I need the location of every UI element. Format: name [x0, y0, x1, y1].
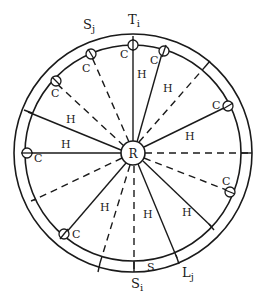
c-node — [225, 187, 235, 197]
svg-text:H: H — [143, 208, 153, 221]
c-node — [21, 148, 33, 158]
label-top: Ti — [128, 12, 140, 29]
svg-text:C: C — [222, 175, 230, 188]
label-bottom: Si — [131, 276, 143, 293]
svg-text:H: H — [185, 130, 195, 143]
center-hub: R — [121, 141, 145, 165]
svg-text:C: C — [51, 87, 59, 100]
svg-text:H: H — [61, 138, 71, 151]
diagram-canvas: R C C C C C C C C H H H H H H H H Ti Sj … — [0, 0, 263, 306]
svg-text:C: C — [150, 54, 158, 67]
svg-text:C: C — [120, 48, 128, 61]
svg-text:C: C — [34, 152, 42, 165]
c-node — [159, 45, 169, 57]
svg-text:H: H — [163, 82, 173, 95]
svg-text:H: H — [182, 206, 192, 219]
c-node — [128, 39, 138, 51]
c-node — [223, 101, 233, 111]
label-ring-gap: S — [147, 261, 155, 274]
svg-text:C: C — [212, 99, 220, 112]
svg-text:C: C — [82, 62, 90, 75]
svg-text:H: H — [66, 113, 76, 126]
label-bottom-right: Lj — [182, 265, 194, 282]
c-node — [51, 76, 61, 86]
c-node — [86, 49, 96, 59]
wheel-diagram: R C C C C C C C C H H H H H H H H Ti Sj … — [0, 0, 263, 306]
svg-text:C: C — [72, 228, 80, 241]
svg-text:H: H — [100, 201, 110, 214]
label-top-left: Sj — [83, 17, 95, 34]
svg-text:H: H — [137, 68, 147, 81]
center-label: R — [128, 147, 138, 161]
c-node — [59, 229, 69, 239]
